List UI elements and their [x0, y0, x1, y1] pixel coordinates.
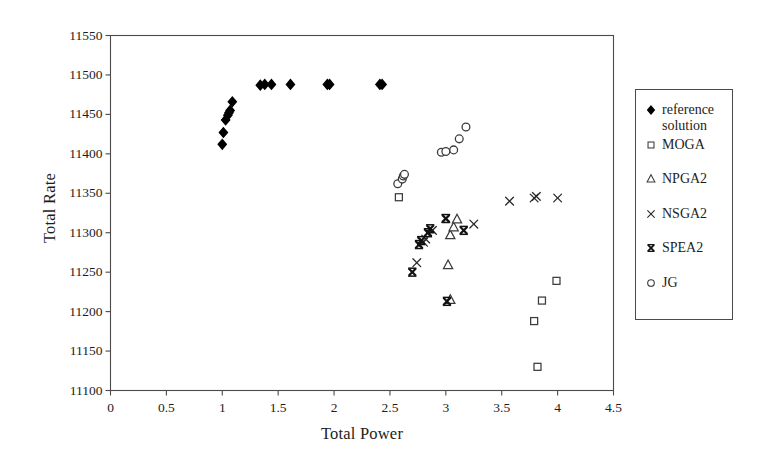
plot-frame: [111, 36, 614, 391]
y-tick-label: 11450: [49, 106, 103, 122]
x-tick-label: 0: [107, 400, 114, 416]
data-points-layer: [218, 80, 561, 371]
x-cross-icon: [643, 206, 659, 221]
legend-label: NSGA2: [662, 206, 707, 222]
x-tick-label: 3.5: [493, 400, 510, 416]
series-spea2: [408, 215, 468, 306]
open-square-icon: [643, 137, 659, 152]
y-tick-label: 11150: [49, 343, 103, 359]
series-jg: [394, 123, 470, 188]
x-tick-label: 1: [219, 400, 226, 416]
x-axis-title: Total Power: [110, 424, 614, 444]
legend-label: MOGA: [662, 137, 705, 153]
open-triangle-icon: [643, 171, 659, 186]
legend-item-reference-solution: reference solution: [643, 102, 733, 133]
x-tick-label: 1.5: [270, 400, 287, 416]
series-npga2: [443, 214, 461, 303]
x-tick-label: 3: [442, 400, 449, 416]
legend-label: reference solution: [662, 102, 733, 133]
y-tick-label: 11200: [49, 304, 103, 320]
legend-label: NPGA2: [662, 171, 707, 187]
legend-item-spea2: SPEA2: [643, 240, 733, 256]
y-tick-label: 11500: [49, 67, 103, 83]
legend-item-nsga2: NSGA2: [643, 206, 733, 222]
legend: reference solutionMOGANPGA2NSGA2SPEA2JG: [635, 89, 733, 320]
legend-item-npga2: NPGA2: [643, 171, 733, 187]
x-tick-label: 4: [554, 400, 561, 416]
y-tick-label: 11100: [49, 383, 103, 399]
x-tick-label: 2.5: [382, 400, 399, 416]
scatter-plot-figure: 1110011150112001125011300113501140011450…: [0, 0, 761, 467]
axis-ticks: [106, 36, 614, 396]
x-tick-label: 0.5: [158, 400, 175, 416]
legend-label: SPEA2: [662, 240, 703, 256]
bold-x-icon: [643, 240, 659, 255]
x-tick-label: 4.5: [605, 400, 622, 416]
y-tick-label: 11550: [49, 28, 103, 44]
y-axis-title: Total Rate: [40, 128, 60, 288]
legend-item-jg: JG: [643, 275, 733, 291]
series-reference-solution: [218, 80, 386, 149]
series-nsga2: [413, 193, 562, 267]
legend-label: JG: [662, 275, 678, 291]
open-circle-icon: [643, 275, 659, 290]
x-tick-label: 2: [331, 400, 338, 416]
legend-item-moga: MOGA: [643, 137, 733, 153]
filled-diamond-icon: [643, 102, 659, 117]
